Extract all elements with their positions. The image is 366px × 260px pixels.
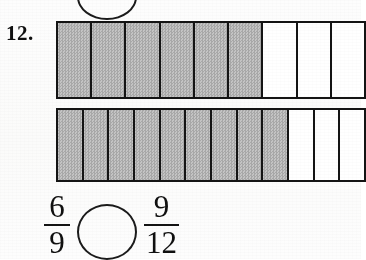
answer-circle-previous-problem[interactable] (77, 0, 137, 20)
bar-segment-shaded[interactable] (238, 110, 264, 180)
bar-segment-shaded[interactable] (84, 110, 110, 180)
fraction-right: 9 12 (144, 191, 179, 259)
bar-segment-shaded[interactable] (212, 110, 238, 180)
bar-segment-unshaded[interactable] (289, 110, 315, 180)
fraction-right-denominator: 12 (144, 227, 179, 259)
bar-segment-shaded[interactable] (58, 23, 92, 97)
comparison-answer-circle[interactable] (77, 204, 137, 260)
problem-number: 12. (6, 23, 34, 44)
bar-segment-shaded[interactable] (263, 110, 289, 180)
fraction-bar-top (56, 21, 366, 99)
bar-segment-shaded[interactable] (161, 110, 187, 180)
fraction-left-numerator: 6 (47, 191, 67, 223)
bar-segment-shaded[interactable] (195, 23, 229, 97)
bar-segment-unshaded[interactable] (298, 23, 332, 97)
bar-segment-unshaded[interactable] (315, 110, 341, 180)
bar-segment-unshaded[interactable] (340, 110, 366, 180)
fraction-left-denominator: 9 (47, 227, 67, 259)
bar-segment-shaded[interactable] (109, 110, 135, 180)
bar-segment-shaded[interactable] (58, 110, 84, 180)
bar-segment-unshaded[interactable] (263, 23, 297, 97)
bar-segment-shaded[interactable] (92, 23, 126, 97)
fraction-left: 6 9 (44, 191, 70, 259)
bar-segment-shaded[interactable] (229, 23, 263, 97)
bar-segment-unshaded[interactable] (332, 23, 366, 97)
bar-segment-shaded[interactable] (126, 23, 160, 97)
fraction-bar-bottom (56, 108, 366, 182)
bar-segment-shaded[interactable] (161, 23, 195, 97)
bar-segment-shaded[interactable] (135, 110, 161, 180)
bar-segment-shaded[interactable] (186, 110, 212, 180)
comparison-expression: 6 9 9 12 (44, 190, 179, 260)
fraction-right-numerator: 9 (152, 191, 172, 223)
